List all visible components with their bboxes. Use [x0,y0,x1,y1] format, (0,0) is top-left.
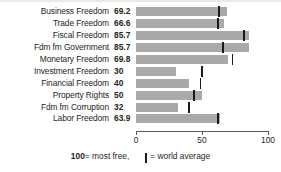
world-average-marker [201,66,203,77]
row-plot-area [136,54,281,66]
economic-freedom-bar-chart: Business Freedom69.2Trade Freedom66.6Fis… [0,0,281,172]
world-average-marker [222,42,224,53]
chart-row: Fiscal Freedom85.7 [5,30,281,42]
value-bar [136,91,202,100]
world-average-marker-icon [145,153,147,163]
chart-row: Financial Freedom40 [5,77,281,89]
row-plot-area [136,101,281,113]
row-value: 85.7 [109,43,136,52]
world-average-marker [217,18,219,29]
row-label: Trade Freedom [5,19,109,28]
row-value: 50 [109,91,136,100]
row-value: 69.2 [109,7,136,16]
row-plot-area [136,65,281,77]
row-label: Fdm fm Corruption [5,103,109,112]
legend-most-free-label: = most free, [85,151,129,162]
value-bar [136,114,220,123]
x-axis-tick-label: 50 [197,135,206,145]
x-axis-tick-label: 100 [261,135,275,145]
row-label: Business Freedom [5,7,109,16]
row-label: Investment Freedom [5,67,109,76]
chart-row: Fdm fm Corruption32 [5,101,281,113]
x-axis-tick-label: 0 [134,135,139,145]
value-bar [136,43,249,52]
world-average-marker [243,30,245,41]
world-average-marker [232,54,234,65]
row-value: 85.7 [109,31,136,40]
row-plot-area [136,77,281,89]
row-value: 32 [109,103,136,112]
row-value: 63.9 [109,114,136,123]
row-label: Labor Freedom [5,114,109,123]
world-average-marker [200,78,202,89]
row-plot-area [136,89,281,101]
world-average-marker [193,90,195,101]
value-bar [136,19,224,28]
row-label: Monetary Freedom [5,55,109,64]
value-bar [136,31,249,40]
row-plot-area [136,6,281,18]
row-value: 30 [109,67,136,76]
chart-row: Labor Freedom63.9 [5,113,281,125]
row-plot-area [136,18,281,30]
value-bar [136,55,228,64]
chart-row: Property Rights50 [5,89,281,101]
chart-legend: 100 = most free, = world average [0,151,281,162]
row-plot-area [136,42,281,54]
top-divider-rule [0,0,281,2]
value-bar [136,7,227,16]
row-label: Fiscal Freedom [5,31,109,40]
chart-row: Trade Freedom66.6 [5,18,281,30]
world-average-marker [217,113,219,124]
world-average-marker [188,102,190,113]
value-bar [136,103,178,112]
chart-row: Investment Freedom30 [5,65,281,77]
row-plot-area [136,113,281,125]
world-average-marker [218,6,220,17]
chart-row: Business Freedom69.2 [5,6,281,18]
chart-rows: Business Freedom69.2Trade Freedom66.6Fis… [0,6,281,125]
legend-most-free-value: 100 [71,151,85,162]
row-label: Financial Freedom [5,79,109,88]
row-plot-area [136,30,281,42]
row-value: 69.8 [109,55,136,64]
row-label: Property Rights [5,91,109,100]
row-label: Fdm fm Government [5,43,109,52]
chart-row: Monetary Freedom69.8 [5,54,281,66]
value-bar [136,67,176,76]
legend-world-average-label: = world average [150,151,210,162]
value-bar [136,79,189,88]
row-value: 66.6 [109,19,136,28]
row-value: 40 [109,79,136,88]
chart-row: Fdm fm Government85.7 [5,42,281,54]
